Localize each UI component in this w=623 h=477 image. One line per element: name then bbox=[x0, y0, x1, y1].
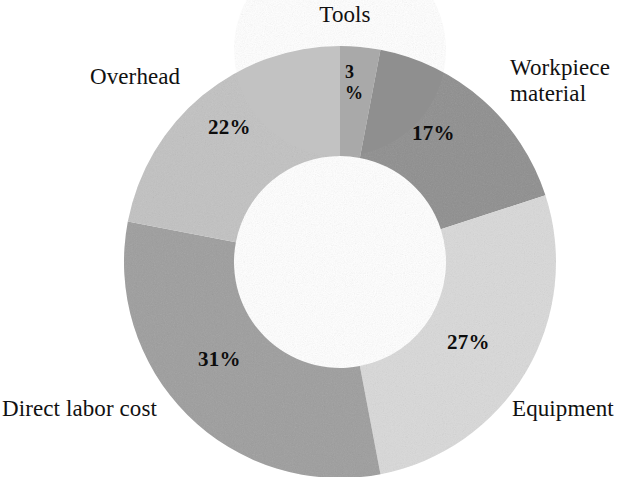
slice-label-workpiece-line1: Workpiece bbox=[510, 55, 610, 80]
donut-chart-figure: Tools Workpiece material Overhead Direct… bbox=[0, 0, 623, 477]
slice-label-workpiece-line2: material bbox=[510, 81, 586, 106]
slice-label-workpiece-material: Workpiece material bbox=[510, 55, 622, 107]
slice-label-overhead: Overhead bbox=[90, 64, 180, 90]
slice-value-tools: 3 % bbox=[345, 62, 371, 104]
slice-label-tools: Tools bbox=[319, 2, 370, 28]
slice-value-direct-labor-cost: 31% bbox=[198, 349, 241, 370]
slice-label-direct-labor-cost: Direct labor cost bbox=[2, 396, 157, 422]
slice-value-tools-number: 3 bbox=[345, 62, 354, 82]
slice-value-overhead: 22% bbox=[208, 117, 251, 138]
slice-value-equipment: 27% bbox=[447, 332, 490, 353]
slice-value-workpiece-material: 17% bbox=[412, 123, 455, 144]
slice-label-equipment: Equipment bbox=[512, 396, 614, 422]
slice-value-tools-percent-sign: % bbox=[345, 83, 363, 103]
